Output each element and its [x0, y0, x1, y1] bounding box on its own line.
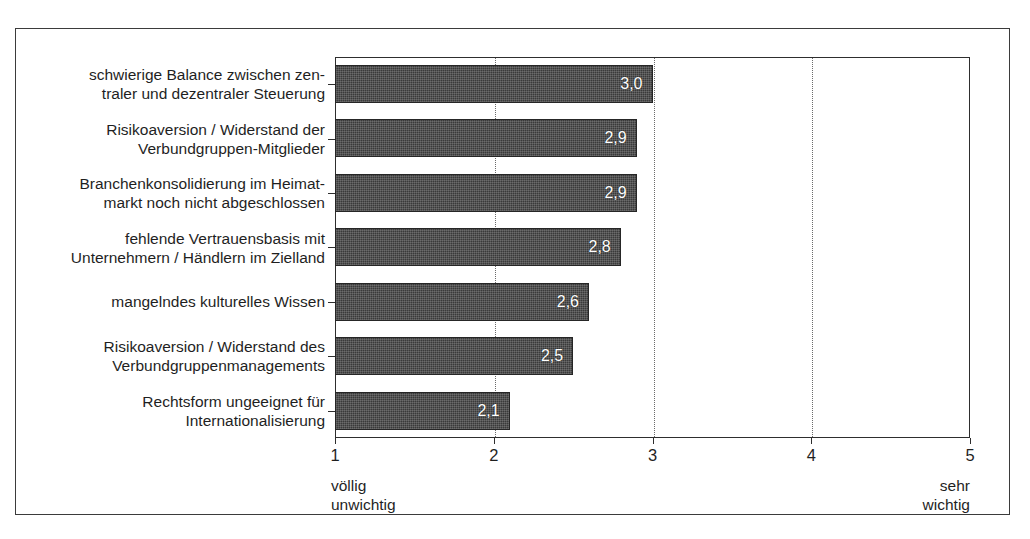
category-tick — [328, 247, 335, 248]
axis-tick-label: 1 — [330, 446, 339, 465]
scale-anchor-high: sehr wichtig — [810, 476, 970, 514]
bar-value-label: 2,6 — [557, 294, 579, 310]
category-label: mangelndes kulturelles Wissen — [25, 292, 325, 311]
category-label: Risikoaversion / Widerstand des Verbundg… — [25, 337, 325, 375]
scan-remnant-text — [120, 0, 910, 7]
axis-tick — [811, 438, 812, 444]
axis-tick — [494, 438, 495, 444]
axis-tick — [970, 438, 971, 444]
bar[interactable]: 2,9 — [335, 174, 637, 212]
category-tick — [328, 84, 335, 85]
bar[interactable]: 2,1 — [335, 392, 510, 430]
category-tick — [328, 302, 335, 303]
bar-value-label: 2,5 — [541, 348, 563, 364]
bar[interactable]: 3,0 — [335, 65, 653, 103]
category-tick — [328, 411, 335, 412]
bar-value-label: 3,0 — [620, 76, 642, 92]
bar-row: 2,9 — [335, 111, 1010, 165]
bar-rows: 3,02,92,92,82,62,52,1 — [335, 57, 1010, 438]
category-label: Risikoaversion / Widerstand der Verbundg… — [25, 120, 325, 158]
category-label: schwierige Balance zwischen zen- traler … — [25, 65, 325, 103]
bar-row: 2,5 — [335, 329, 1010, 383]
bar-row: 2,1 — [335, 384, 1010, 438]
scale-anchor-low: völlig unwichtig — [331, 476, 396, 514]
bar-row: 2,8 — [335, 220, 1010, 274]
bar-row: 2,6 — [335, 275, 1010, 329]
bar[interactable]: 2,8 — [335, 228, 621, 266]
bar[interactable]: 2,9 — [335, 119, 637, 157]
axis-tick-label: 4 — [807, 446, 816, 465]
category-tick — [328, 193, 335, 194]
bar-value-label: 2,1 — [477, 403, 499, 419]
axis-tick-label: 5 — [965, 446, 974, 465]
bar[interactable]: 2,5 — [335, 337, 573, 375]
axis-tick — [653, 438, 654, 444]
axis-tick-label: 2 — [489, 446, 498, 465]
bar[interactable]: 2,6 — [335, 283, 589, 321]
category-label: fehlende Vertrauensbasis mit Unternehmer… — [25, 229, 325, 267]
axis-tick — [335, 438, 336, 444]
category-tick — [328, 356, 335, 357]
bar-value-label: 2,9 — [604, 185, 626, 201]
bar-row: 3,0 — [335, 57, 1010, 111]
bar-row: 2,9 — [335, 166, 1010, 220]
category-label: Rechtsform ungeeignet für Internationali… — [25, 392, 325, 430]
category-label: Branchenkonsolidierung im Heimat- markt … — [25, 174, 325, 212]
axis-tick-label: 3 — [648, 446, 657, 465]
bar-value-label: 2,8 — [589, 239, 611, 255]
category-tick — [328, 139, 335, 140]
chart-figure: 3,02,92,92,82,62,52,1 schwierige Balance… — [0, 0, 1030, 539]
bar-value-label: 2,9 — [604, 130, 626, 146]
